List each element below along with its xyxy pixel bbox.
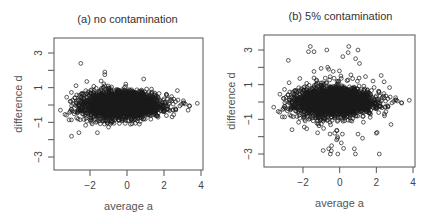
scatter-plot-b: −3−113−2024average adifference d [213,0,426,220]
x-tick-label: 0 [124,180,130,191]
y-tick-label: −3 [243,148,254,160]
y-tick-label: −1 [243,113,254,125]
panel-a: (a) no contamination −3−113−2024average … [0,0,213,220]
y-axis-label: difference d [225,72,237,129]
x-axis-label: average a [315,197,365,209]
y-tick-label: −1 [33,116,44,128]
x-tick-label: −2 [297,177,309,188]
panel-b: (b) 5% contamination −3−113−2024average … [213,0,426,220]
y-tick-label: −3 [33,151,44,163]
y-tick-label: 3 [33,50,44,56]
data-points [272,45,411,156]
x-tick-label: 4 [198,180,204,191]
y-tick-label: 1 [243,81,254,87]
y-axis-label: difference d [12,75,24,132]
x-tick-label: 2 [374,177,380,188]
x-tick-label: −2 [84,180,96,191]
x-axis-label: average a [104,200,154,212]
x-tick-label: 2 [161,180,167,191]
data-points [59,62,200,139]
x-tick-label: 4 [410,177,416,188]
x-tick-label: 0 [337,177,343,188]
y-tick-label: 1 [33,84,44,90]
scatter-plot-a: −3−113−2024average adifference d [0,0,213,220]
y-tick-label: 3 [243,47,254,53]
